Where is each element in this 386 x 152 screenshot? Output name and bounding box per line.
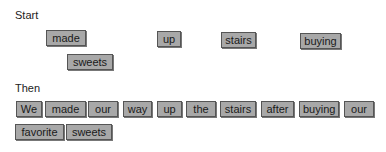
- word-tile[interactable]: We: [16, 101, 42, 117]
- then-label: Then: [15, 82, 40, 94]
- word-tile[interactable]: our: [344, 101, 374, 117]
- word-tile[interactable]: up: [157, 101, 182, 117]
- word-tile[interactable]: stairs: [221, 32, 256, 48]
- word-tile[interactable]: sweets: [66, 124, 112, 140]
- word-tile[interactable]: stairs: [220, 101, 256, 117]
- word-tile[interactable]: favorite: [15, 124, 64, 140]
- word-tile[interactable]: up: [157, 31, 181, 47]
- word-tile[interactable]: after: [261, 101, 294, 117]
- word-tile[interactable]: buying: [300, 33, 341, 49]
- word-tile[interactable]: sweets: [67, 54, 113, 70]
- word-tile[interactable]: way: [123, 101, 152, 117]
- word-tile[interactable]: the: [186, 101, 216, 117]
- word-tile[interactable]: our: [88, 101, 118, 117]
- start-label: Start: [15, 9, 38, 21]
- word-tile[interactable]: made: [46, 30, 86, 46]
- word-tile[interactable]: buying: [299, 101, 339, 117]
- word-tile[interactable]: made: [45, 101, 86, 117]
